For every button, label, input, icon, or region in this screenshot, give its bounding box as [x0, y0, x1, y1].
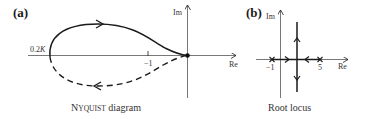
- origin-dot: [185, 53, 190, 58]
- real-axis-label-b: Re: [338, 62, 347, 71]
- tick-label-five: 5: [318, 63, 322, 72]
- gain-crossing-label: 0.2K: [30, 45, 46, 54]
- nyquist-curve-dashed: [50, 56, 188, 87]
- tick-label-minus-one-b: −1: [266, 63, 275, 72]
- imag-axis-label-b: Im: [266, 12, 276, 21]
- real-axis-label: Re: [229, 60, 238, 69]
- figure: (a) Re Im −1 0.2K NYQUIST diagram (b) Im: [0, 0, 366, 119]
- imag-axis-label: Im: [173, 8, 183, 17]
- panel-a-label: (a): [13, 5, 28, 20]
- panel-b-root-locus: (b) Im Re −1 5 Root locus: [246, 5, 348, 113]
- panel-b-label: (b): [246, 5, 262, 20]
- tick-label-minus-one: −1: [144, 59, 153, 68]
- panel-a-caption: NYQUIST diagram: [71, 102, 141, 113]
- panel-b-caption: Root locus: [268, 102, 311, 113]
- nyquist-curve-solid: [50, 24, 188, 57]
- panel-a-nyquist: (a) Re Im −1 0.2K NYQUIST diagram: [13, 5, 238, 113]
